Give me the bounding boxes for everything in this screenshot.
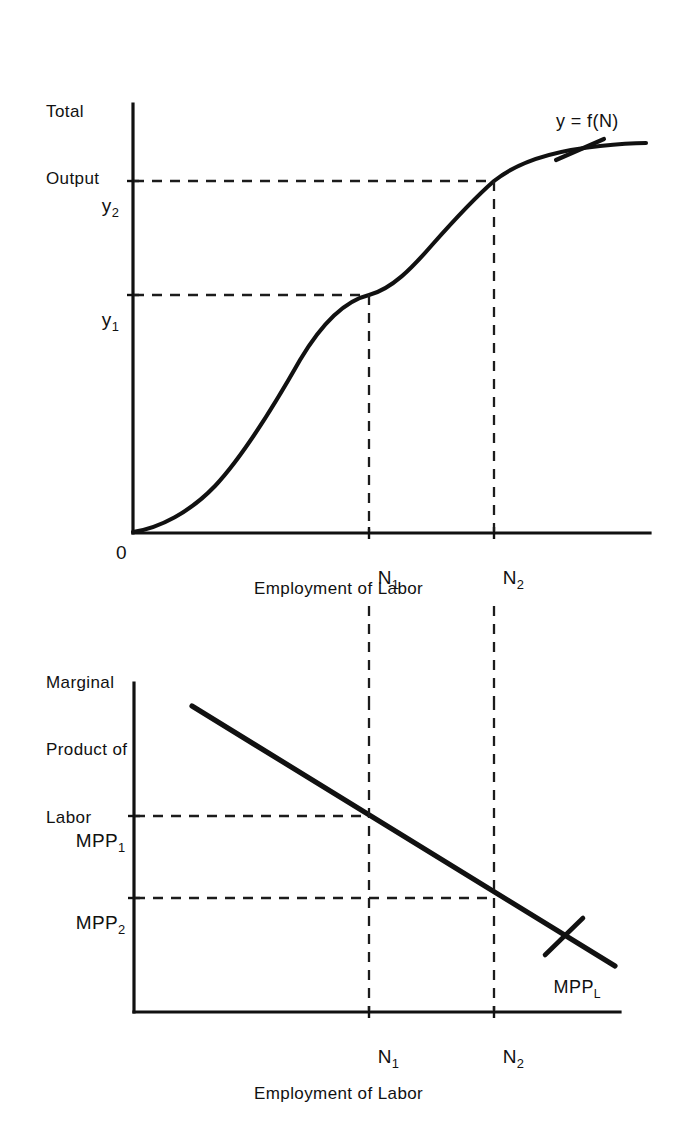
bottom-xtick-n1-sub: 1 <box>392 1056 399 1071</box>
bottom-x-axis-title: Employment of Labor <box>254 1083 423 1105</box>
bottom-ytick-mpp1-sub: 1 <box>118 840 125 855</box>
production-function-label: y = f(N) <box>556 110 619 134</box>
bottom-xtick-n1-base: N <box>378 1046 392 1067</box>
bottom-ytick-mpp1-base: MPP <box>76 830 118 851</box>
top-origin-label: 0 <box>116 540 127 565</box>
mpp-l-label-base: MPP <box>554 977 594 997</box>
top-panel-axes <box>133 104 650 533</box>
total-output-curve <box>133 143 646 532</box>
top-ytick-y1-label: y1 <box>79 282 119 360</box>
bottom-xtick-n2-base: N <box>503 1046 517 1067</box>
top-ytick-y1-sub: 1 <box>112 319 119 334</box>
mpp-l-label-sub: L <box>594 986 601 1000</box>
inter-panel-connectors <box>369 606 494 700</box>
top-ytick-y2-sub: 2 <box>112 205 119 220</box>
bottom-y-axis-title-line2: Product of <box>46 739 128 761</box>
top-xtick-n2-base: N <box>503 567 517 588</box>
bottom-ytick-mpp2-sub: 2 <box>118 922 125 937</box>
bottom-xtick-n2-sub: 2 <box>517 1056 524 1071</box>
top-ytick-y1-base: y <box>102 309 112 330</box>
top-y-axis-title-line1: Total <box>46 101 99 123</box>
bottom-dashed-guides <box>135 700 494 1010</box>
top-x-axis-title: Employment of Labor <box>254 578 423 600</box>
top-xtick-n2-sub: 2 <box>517 577 524 592</box>
bottom-ytick-mpp1-label: MPP1 <box>53 803 125 881</box>
economics-figure: Total Output y2 y1 0 N1 N2 y = f(N) Empl… <box>0 0 687 1148</box>
top-ytick-y2-base: y <box>102 195 112 216</box>
mpp-l-curve <box>192 706 615 966</box>
top-ytick-y2-label: y2 <box>79 168 119 246</box>
mpp-l-label: MPPL <box>532 952 601 1025</box>
bottom-ytick-mpp2-label: MPP2 <box>53 885 125 963</box>
bottom-xtick-n2-label: N2 <box>480 1019 524 1097</box>
bottom-ytick-mpp2-base: MPP <box>76 912 118 933</box>
top-xtick-n2-label: N2 <box>480 540 524 618</box>
bottom-y-axis-title-line1: Marginal <box>46 672 128 694</box>
